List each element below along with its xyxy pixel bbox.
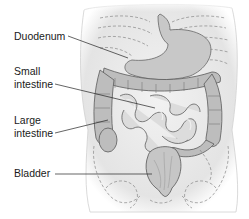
label-large-intestine: Large intestine <box>14 114 53 140</box>
label-bladder: Bladder <box>14 167 50 180</box>
label-duodenum-text: Duodenum <box>14 30 65 42</box>
label-large-intestine-line2: intestine <box>14 127 53 140</box>
label-small-intestine-line1: Small <box>14 65 53 78</box>
label-small-intestine: Small intestine <box>14 65 53 91</box>
label-duodenum: Duodenum <box>14 30 65 43</box>
label-small-intestine-line2: intestine <box>14 78 53 91</box>
anatomy-diagram: Duodenum Small intestine Large intestine… <box>0 0 249 219</box>
label-bladder-text: Bladder <box>14 167 50 179</box>
label-large-intestine-line1: Large <box>14 114 53 127</box>
